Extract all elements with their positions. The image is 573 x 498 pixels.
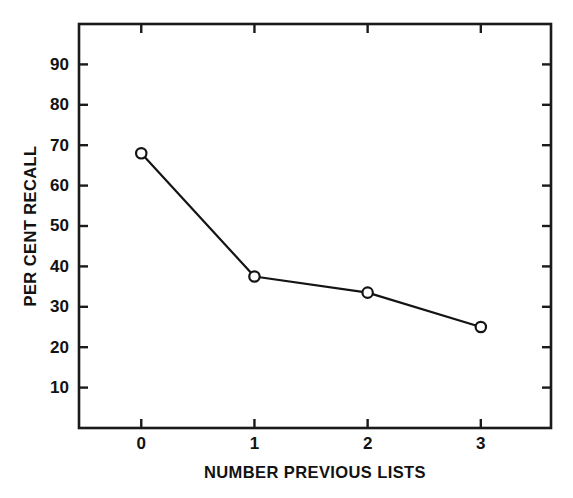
x-tick-label: 2 xyxy=(363,434,372,453)
y-tick-label: 20 xyxy=(50,338,69,357)
x-tick-label: 0 xyxy=(137,434,146,453)
data-point-marker xyxy=(362,287,372,297)
y-tick-label: 30 xyxy=(50,297,69,316)
x-tick-label: 1 xyxy=(250,434,259,453)
y-tick-label: 50 xyxy=(50,216,69,235)
y-tick-label: 10 xyxy=(50,378,69,397)
y-tick-label: 40 xyxy=(50,257,69,276)
data-point-marker xyxy=(249,271,259,281)
y-axis-tick-labels: 102030405060708090 xyxy=(50,55,69,397)
line-chart: 102030405060708090 0123 NUMBER PREVIOUS … xyxy=(0,0,573,498)
y-tick-label: 80 xyxy=(50,95,69,114)
x-axis-title: NUMBER PREVIOUS LISTS xyxy=(204,463,426,481)
data-line-series xyxy=(141,153,481,327)
y-axis-title: PER CENT RECALL xyxy=(21,146,39,307)
data-point-marker xyxy=(476,322,486,332)
plot-frame xyxy=(79,24,551,428)
y-axis-ticks xyxy=(79,64,551,387)
x-axis-ticks xyxy=(141,24,481,428)
y-tick-label: 60 xyxy=(50,176,69,195)
y-tick-label: 70 xyxy=(50,136,69,155)
x-axis-tick-labels: 0123 xyxy=(137,434,486,453)
y-tick-label: 90 xyxy=(50,55,69,74)
chart-figure: 102030405060708090 0123 NUMBER PREVIOUS … xyxy=(0,0,573,498)
data-point-markers xyxy=(136,148,486,332)
data-point-marker xyxy=(136,148,146,158)
x-tick-label: 3 xyxy=(476,434,485,453)
